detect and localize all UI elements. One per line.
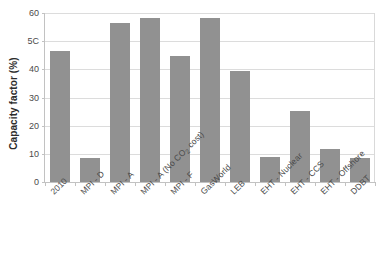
y-tick-label-10: 10	[9, 149, 39, 159]
y-tick-label-50: 5C	[9, 36, 39, 46]
bar	[230, 71, 250, 182]
y-tick-label-20: 20	[9, 121, 39, 131]
y-axis-title: Capacity factor (%)	[8, 44, 19, 164]
y-tick-mark-10	[42, 154, 45, 155]
bars-layer	[45, 13, 375, 182]
bar	[50, 51, 70, 182]
bar	[200, 18, 220, 182]
y-tick-label-30: 30	[9, 93, 39, 103]
y-tick-label-60: 60	[9, 8, 39, 18]
capacity-factor-bar-chart: Capacity factor (%) 0102030405C60 2010MP…	[0, 0, 385, 272]
bar	[140, 18, 160, 182]
plot-area	[45, 13, 375, 182]
y-tick-mark-60	[42, 13, 45, 14]
y-tick-mark-40	[42, 69, 45, 70]
y-tick-label-40: 40	[9, 64, 39, 74]
y-tick-mark-20	[42, 126, 45, 127]
y-tick-mark-30	[42, 98, 45, 99]
y-tick-mark-50	[42, 41, 45, 42]
bar	[110, 23, 130, 182]
x-axis-labels: 2010MPI - DMPI - AMPI - A (No CO2 cost)M…	[0, 186, 385, 272]
